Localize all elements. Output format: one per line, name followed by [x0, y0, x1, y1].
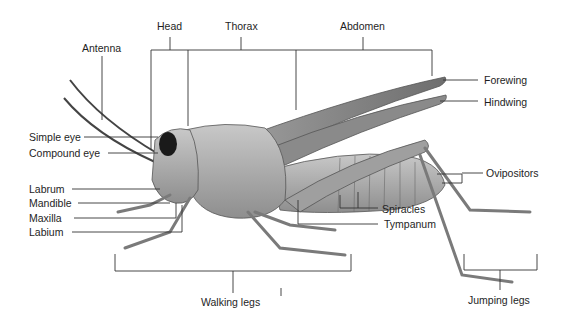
label-simple-eye: Simple eye [29, 131, 81, 143]
label-forewing: Forewing [484, 74, 527, 86]
label-labrum: Labrum [29, 183, 65, 195]
label-hindwing: Hindwing [484, 96, 527, 108]
label-thorax: Thorax [225, 20, 258, 32]
label-tympanum: Tympanum [384, 218, 436, 230]
label-spiracles: Spiracles [382, 203, 425, 215]
thorax-shape [185, 124, 286, 218]
label-maxilla: Maxilla [29, 212, 62, 224]
label-mandible: Mandible [29, 197, 72, 209]
label-compound-eye: Compound eye [29, 147, 100, 159]
label-walking-legs: Walking legs [201, 296, 260, 308]
label-antenna: Antenna [82, 42, 121, 54]
label-jumping-legs: Jumping legs [468, 294, 530, 306]
label-head: Head [157, 20, 182, 32]
label-ovipositors: Ovipositors [486, 167, 539, 179]
label-abdomen: Abdomen [340, 20, 385, 32]
label-labium: Labium [29, 226, 63, 238]
compound-eye-shape [159, 132, 177, 156]
